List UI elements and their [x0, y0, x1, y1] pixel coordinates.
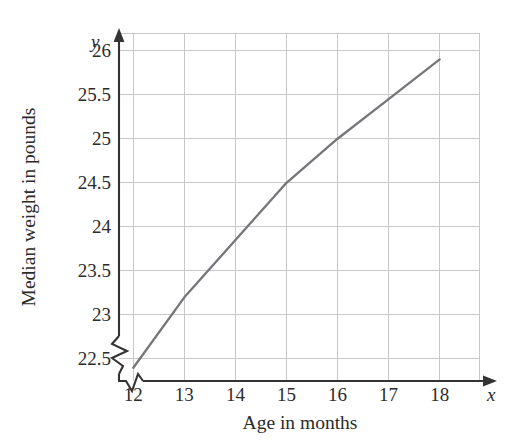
- y-axis-variable-label: y: [89, 31, 100, 52]
- plot-background: [119, 33, 479, 381]
- x-axis-tick-labels: 12131415161718: [124, 384, 449, 405]
- y-tick-label: 24: [92, 216, 112, 237]
- x-tick-label: 15: [277, 384, 296, 405]
- x-tick-label: 14: [226, 384, 246, 405]
- line-chart-figure: 22.52323.52424.52525.526 12131415161718 …: [0, 0, 507, 448]
- y-tick-label: 23.5: [78, 260, 111, 281]
- y-tick-label: 23: [92, 304, 111, 325]
- y-tick-label: 25.5: [78, 84, 111, 105]
- x-axis-variable-label: x: [486, 384, 496, 405]
- x-tick-label: 13: [175, 384, 194, 405]
- x-axis-title: Age in months: [243, 412, 358, 433]
- y-tick-label: 25: [92, 128, 111, 149]
- y-axis-title: Median weight in pounds: [18, 108, 39, 307]
- x-tick-label: 16: [328, 384, 347, 405]
- chart-canvas: 22.52323.52424.52525.526 12131415161718 …: [0, 0, 507, 448]
- x-tick-label: 18: [430, 384, 449, 405]
- x-tick-label: 12: [124, 384, 143, 405]
- y-axis-tick-labels: 22.52323.52424.52525.526: [78, 40, 112, 369]
- y-tick-label: 24.5: [78, 172, 111, 193]
- x-tick-label: 17: [379, 384, 398, 405]
- y-tick-label: 22.5: [78, 348, 111, 369]
